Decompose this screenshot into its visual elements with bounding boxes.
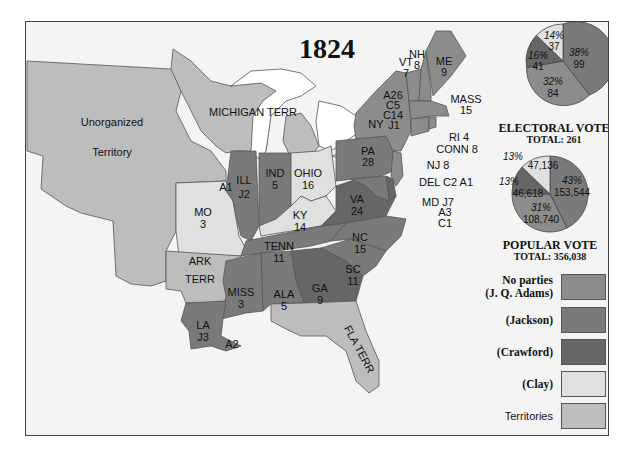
- label-ark: ARK: [189, 255, 212, 267]
- label-sc-votes: 11: [347, 275, 358, 287]
- svg-text:16%: 16%: [528, 50, 548, 61]
- popular-vote-title: POPULAR VOTE: [503, 238, 598, 252]
- label-ny: NY: [368, 118, 384, 130]
- svg-text:41: 41: [532, 61, 544, 72]
- label-mass-votes: 15: [460, 104, 472, 116]
- label-territory: Territory: [92, 146, 132, 158]
- svg-text:43%: 43%: [562, 175, 582, 186]
- label-nc-votes: 15: [354, 243, 366, 255]
- label-ala: ALA: [274, 288, 295, 300]
- label-tenn-votes: 11: [273, 252, 284, 264]
- label-ind: IND: [266, 167, 285, 179]
- label-ga: GA: [312, 282, 329, 294]
- svg-text:153,544: 153,544: [554, 187, 591, 198]
- label-tenn: TENN: [264, 240, 294, 252]
- label-ark-terr: TERR: [185, 273, 215, 285]
- label-ga-votes: 9: [317, 294, 323, 306]
- label-vt-votes: 7: [403, 67, 409, 79]
- label-unorganized: Unorganized: [81, 116, 143, 128]
- svg-text:84: 84: [547, 88, 559, 99]
- label-ky: KY: [293, 209, 308, 221]
- popular-vote-total: TOTAL: 356,038: [514, 251, 586, 262]
- svg-text:13%: 13%: [503, 151, 523, 162]
- label-la-jackson: J3: [197, 331, 209, 343]
- label-michigan-terr: MICHIGAN TERR: [209, 106, 297, 118]
- legend: No parties (J. Q. Adams) (Jackson) (Craw…: [461, 271, 606, 433]
- legend-item-clay: (Clay): [461, 369, 606, 399]
- label-conn: CONN 8: [436, 143, 478, 155]
- state-ri: [429, 117, 436, 129]
- svg-text:38%: 38%: [569, 47, 589, 58]
- label-ill: ILL: [236, 174, 251, 186]
- label-ky-votes: 14: [294, 221, 306, 233]
- legend-item-crawford: (Crawford): [461, 337, 606, 367]
- label-va: VA: [350, 193, 365, 205]
- label-ill-jackson: J2: [238, 188, 250, 200]
- svg-text:46,618: 46,618: [513, 188, 544, 199]
- label-ohio: OHIO: [294, 167, 323, 179]
- legend-swatch-jackson: [561, 307, 606, 333]
- legend-swatch-crawford: [561, 339, 606, 365]
- label-del: DEL C2 A1: [419, 176, 473, 188]
- label-nj: NJ 8: [427, 159, 450, 171]
- svg-text:31%: 31%: [531, 202, 551, 213]
- label-md-crawford: C1: [438, 217, 452, 229]
- svg-text:32%: 32%: [543, 76, 563, 87]
- label-ri: RI 4: [449, 131, 469, 143]
- legend-swatch-territories: [561, 403, 606, 429]
- label-miss-votes: 3: [238, 298, 244, 310]
- label-me-votes: 9: [441, 66, 447, 78]
- map-title: 1824: [299, 33, 355, 64]
- label-ill-adams: A1: [219, 181, 232, 193]
- map-frame: 1824 Unorganized Territory MICHIGAN TERR…: [25, 21, 609, 436]
- legend-swatch-adams: [561, 274, 606, 300]
- label-la: LA: [196, 319, 210, 331]
- svg-text:47,136: 47,136: [528, 160, 559, 171]
- label-mo: MO: [194, 206, 212, 218]
- label-ohio-votes: 16: [302, 179, 314, 191]
- label-nc: NC: [352, 231, 368, 243]
- svg-text:37: 37: [548, 41, 560, 52]
- svg-text:14%: 14%: [544, 30, 564, 41]
- label-pa-votes: 28: [362, 156, 374, 168]
- svg-text:99: 99: [573, 59, 585, 70]
- legend-item-adams: No parties (J. Q. Adams): [461, 271, 606, 303]
- label-ny-jackson: J1: [388, 119, 400, 131]
- label-va-votes: 24: [351, 205, 363, 217]
- label-miss: MISS: [228, 286, 255, 298]
- electoral-vote-title: ELECTORAL VOTE: [498, 121, 609, 135]
- svg-text:13%: 13%: [499, 176, 519, 187]
- svg-text:108,740: 108,740: [523, 214, 560, 225]
- label-nh-votes: 8: [414, 59, 420, 71]
- legend-item-jackson: (Jackson): [461, 305, 606, 335]
- legend-swatch-clay: [561, 371, 606, 397]
- label-sc: SC: [345, 263, 360, 275]
- label-ind-votes: 5: [272, 179, 278, 191]
- label-ala-votes: 5: [281, 300, 287, 312]
- legend-item-territories: Territories: [461, 401, 606, 431]
- label-la-adams: A2: [225, 338, 238, 350]
- label-mo-votes: 3: [200, 218, 206, 230]
- electoral-vote-total: TOTAL: 261: [527, 134, 582, 145]
